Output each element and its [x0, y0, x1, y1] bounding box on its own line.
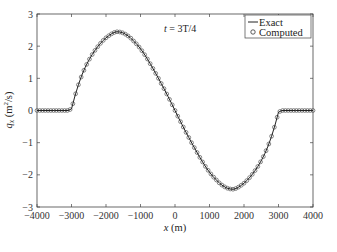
- y-tick-label: 0: [28, 105, 33, 116]
- legend-computed-label: Computed: [259, 27, 303, 38]
- x-tick-label: 4000: [303, 210, 323, 221]
- y-tick-label: 2: [28, 41, 33, 52]
- x-tick-label: −3000: [59, 210, 85, 221]
- x-tick-label: 2000: [234, 210, 254, 221]
- plot-area: −4000−3000−2000−100001000200030004000 32…: [22, 9, 323, 222]
- x-tick-label: −1000: [128, 210, 154, 221]
- x-tick-label: −2000: [93, 210, 119, 221]
- legend: Exact Computed: [245, 15, 311, 38]
- y-tick-label: −2: [22, 169, 33, 180]
- x-tick-label: 3000: [269, 210, 289, 221]
- x-tick-label: 0: [173, 210, 178, 221]
- y-tick-label: 1: [28, 73, 33, 84]
- time-annotation: t = 3T/4: [164, 23, 196, 34]
- legend-exact-label: Exact: [259, 17, 283, 28]
- y-tick-label: −3: [22, 202, 33, 213]
- x-tick-label: 1000: [200, 210, 220, 221]
- y-tick-label: −1: [22, 137, 33, 148]
- y-tick-label: 3: [28, 9, 33, 20]
- y-axis-label: qx (m2/s): [2, 91, 16, 128]
- chart: −4000−3000−2000−100001000200030004000 32…: [0, 0, 337, 252]
- x-axis-label: x (m): [163, 222, 187, 234]
